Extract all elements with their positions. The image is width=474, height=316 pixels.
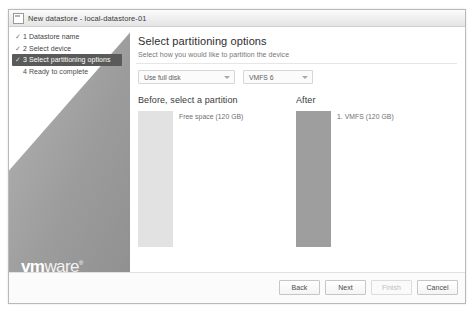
dialog-footer: Back Next Finish Cancel [9,272,465,303]
step-label: 4 Ready to complete [23,68,88,75]
filesystem-format-select[interactable]: VMFS 6 [243,70,313,84]
page-subtitle: Select how you would like to partition t… [138,51,465,58]
check-icon: ✓ [15,56,23,63]
check-icon: ✓ [15,33,23,40]
before-partition-row: Free space (120 GB) [138,111,288,247]
finish-button: Finish [371,280,412,295]
window-icon [13,13,24,24]
dialog-content: ✓ 1 Datastore name ✓ 2 Select device ✓ 3… [9,27,465,303]
free-space-partition-label: Free space (120 GB) [179,113,243,120]
free-space-partition-bar[interactable] [138,111,173,247]
partition-scheme-select[interactable]: Use full disk [138,70,235,84]
before-pane: Before, select a partition Free space (1… [138,95,288,247]
next-button[interactable]: Next [325,280,366,295]
vmfs-partition-label: 1. VMFS (120 GB) [337,113,394,120]
sidebar-item-datastore-name[interactable]: ✓ 1 Datastore name [9,31,130,43]
back-button[interactable]: Back [279,280,320,295]
dialog-titlebar: New datastore - local-datastore-01 [9,10,465,27]
step-label: 3 Select partitioning options [23,56,110,63]
before-heading: Before, select a partition [138,95,288,105]
page-title: Select partitioning options [138,35,465,47]
screenshot-root: New datastore - local-datastore-01 ✓ 1 D… [0,0,474,316]
filesystem-format-value: VMFS 6 [249,74,274,81]
after-pane: After 1. VMFS (120 GB) [296,95,456,247]
new-datastore-dialog: New datastore - local-datastore-01 ✓ 1 D… [8,9,466,304]
vmfs-partition-bar [296,111,331,247]
partition-preview: Before, select a partition Free space (1… [138,95,457,267]
cancel-button[interactable]: Cancel [417,280,458,295]
after-partition-row: 1. VMFS (120 GB) [296,111,456,247]
partitioning-options-row: Use full disk VMFS 6 [138,70,313,84]
sidebar-item-ready-to-complete[interactable]: 4 Ready to complete [9,66,130,78]
chevron-down-icon [224,76,230,79]
wizard-sidebar: ✓ 1 Datastore name ✓ 2 Select device ✓ 3… [9,27,130,303]
step-label: 1 Datastore name [23,33,79,40]
dialog-button-row: Back Next Finish Cancel [279,280,458,295]
header-divider [136,63,457,64]
sidebar-item-select-partitioning-options[interactable]: ✓ 3 Select partitioning options [12,54,122,66]
vmware-logo-trademark: ® [79,260,83,266]
partition-scheme-value: Use full disk [144,74,181,81]
step-label: 2 Select device [23,45,71,52]
wizard-step-list: ✓ 1 Datastore name ✓ 2 Select device ✓ 3… [9,27,130,77]
check-icon: ✓ [15,45,23,52]
dialog-title: New datastore - local-datastore-01 [28,14,146,23]
main-header: Select partitioning options Select how y… [130,27,465,58]
sidebar-item-select-device[interactable]: ✓ 2 Select device [9,43,130,55]
wizard-main-panel: Select partitioning options Select how y… [130,27,465,303]
after-heading: After [296,95,456,105]
chevron-down-icon [302,76,308,79]
